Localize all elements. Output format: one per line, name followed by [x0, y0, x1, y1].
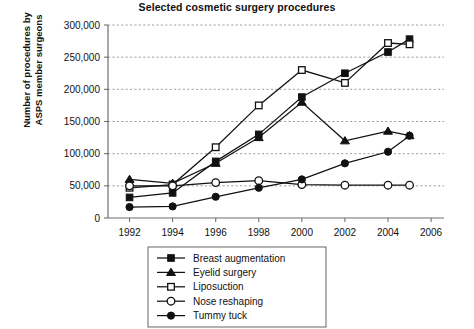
x-tick-label: 1996 — [205, 227, 228, 238]
series-liposuction — [126, 40, 413, 191]
x-tick-label: 2006 — [420, 227, 443, 238]
marker-filled-square — [385, 49, 392, 56]
marker-filled-circle — [255, 184, 262, 191]
chart-legend: Breast augmentationEyelid surgeryLiposuc… — [148, 247, 326, 327]
marker-open-square — [385, 40, 392, 47]
y-tick-label: 300,000 — [64, 20, 101, 31]
y-tick-labels-group: 050,000100,000150,000200,000250,000300,0… — [64, 20, 101, 224]
y-tick-label: 200,000 — [64, 84, 101, 95]
x-tick-label: 2004 — [377, 227, 400, 238]
marker-open-circle — [169, 182, 177, 190]
marker-filled-triangle — [384, 127, 393, 134]
marker-open-circle — [384, 181, 392, 189]
marker-open-circle — [255, 177, 263, 185]
legend-item-label: Nose reshaping — [193, 296, 263, 307]
x-tick-label: 2000 — [291, 227, 314, 238]
series-line — [130, 43, 410, 188]
plot-area: 050,000100,000150,000200,000250,000300,0… — [0, 0, 474, 329]
marker-filled-circle — [126, 203, 133, 210]
marker-open-circle — [212, 179, 220, 187]
marker-open-square — [342, 80, 349, 87]
x-tick-labels-group: 19921994199619982000200220042006 — [118, 227, 442, 238]
series-line — [130, 102, 410, 183]
marker-open-circle — [406, 181, 414, 189]
marker-filled-circle — [384, 148, 391, 155]
marker-filled-circle — [167, 312, 174, 319]
marker-filled-circle — [212, 193, 219, 200]
marker-open-square — [255, 102, 262, 109]
chart-container: Selected cosmetic surgery procedures Num… — [0, 0, 474, 329]
legend-item-label: Breast augmentation — [193, 253, 285, 264]
y-tick-label: 250,000 — [64, 52, 101, 63]
legend-item-tummy-tuck[interactable]: Tummy tuck — [157, 310, 248, 321]
marker-open-circle — [126, 182, 134, 190]
data-series-group — [125, 36, 414, 211]
marker-open-circle — [341, 181, 349, 189]
series-line — [130, 39, 410, 197]
x-tick-label: 1998 — [248, 227, 271, 238]
marker-filled-circle — [298, 176, 305, 183]
marker-open-square — [406, 41, 413, 48]
marker-open-square — [212, 144, 219, 151]
y-tick-label: 0 — [94, 213, 100, 224]
y-tick-label: 100,000 — [64, 148, 101, 159]
series-tummy-tuck — [126, 132, 413, 211]
y-tick-label: 150,000 — [64, 116, 101, 127]
x-tick-label: 2002 — [334, 227, 357, 238]
legend-item-label: Tummy tuck — [193, 310, 248, 321]
legend-item-nose-reshaping[interactable]: Nose reshaping — [157, 296, 263, 307]
axes-group — [104, 25, 444, 222]
x-tick-label: 1992 — [118, 227, 141, 238]
marker-filled-circle — [406, 132, 413, 139]
marker-filled-square — [169, 190, 176, 197]
marker-filled-square — [342, 70, 349, 77]
y-tick-label: 50,000 — [69, 180, 100, 191]
marker-filled-circle — [169, 203, 176, 210]
marker-open-square — [168, 284, 175, 291]
marker-filled-triangle — [125, 175, 134, 182]
legend-item-label: Liposuction — [193, 281, 244, 292]
series-eyelid-surgery — [125, 98, 414, 186]
marker-filled-square — [126, 194, 133, 201]
marker-open-square — [299, 67, 306, 74]
marker-filled-square — [168, 255, 175, 262]
marker-open-circle — [167, 297, 175, 305]
marker-filled-circle — [341, 160, 348, 167]
legend-item-label: Eyelid surgery — [193, 267, 256, 278]
x-tick-label: 1994 — [161, 227, 184, 238]
